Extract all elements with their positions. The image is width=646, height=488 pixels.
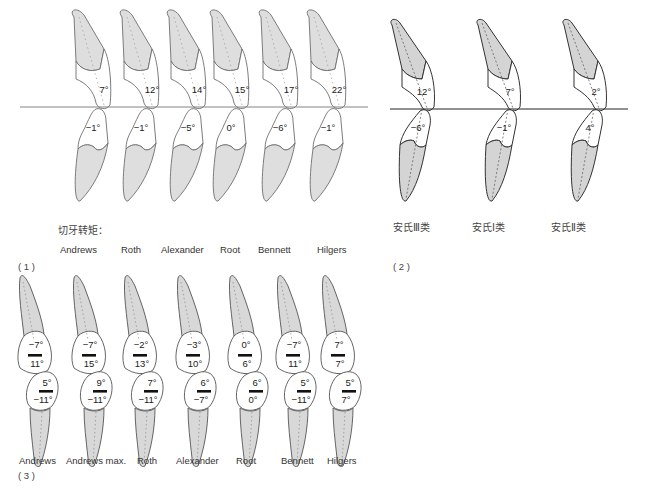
lower-torque-top: 5° (42, 377, 51, 388)
system-label: Andrews (60, 244, 97, 255)
lower-root-icon (213, 143, 246, 201)
upper-root-icon (120, 10, 152, 71)
upper-torque-bottom: 13° (135, 358, 150, 369)
upper-torque-top: −2° (134, 339, 149, 350)
upper-torque-value: 15° (235, 84, 250, 95)
lower-root-icon (310, 143, 343, 201)
panel-3-bracket-torque: −7°11°5°−11°−7°15°9°−11°−2°13°7°−11°−3°1… (18, 276, 361, 467)
upper-torque-top: 0° (241, 339, 250, 350)
lower-root-icon (399, 140, 426, 201)
lower-root-icon (170, 143, 203, 201)
lower-torque-value: −5° (181, 122, 196, 133)
panel-2-angle-classes: 12°−6°7°−1°2°4° (390, 19, 628, 201)
lower-torque-top: 6° (252, 377, 261, 388)
upper-torque-value: 14° (192, 84, 207, 95)
tooth-pair-root: 15°0° (210, 10, 249, 201)
upper-torque-value: 7° (505, 86, 514, 97)
bracket-slot-icon (133, 354, 147, 357)
system-label: Bennett (281, 455, 314, 466)
lower-torque-value: −1° (321, 122, 336, 133)
lower-torque-top: 7° (147, 377, 156, 388)
tooth-pair-andrews: −7°11°5°−11° (18, 276, 58, 467)
panel-1-label: ( 1 ) (18, 261, 35, 272)
class-label: 安氏Ⅰ类 (472, 219, 505, 234)
upper-root-icon (563, 19, 598, 79)
upper-root-icon (177, 276, 202, 336)
lower-torque-bottom: −7° (194, 394, 209, 405)
tooth-pair-andrews: 7°−1° (72, 10, 111, 201)
lower-torque-value: −1° (86, 122, 101, 133)
system-label: Alexander (176, 455, 219, 466)
lower-torque-top: 5° (300, 377, 309, 388)
upper-torque-value: 12° (145, 84, 160, 95)
upper-root-icon (124, 276, 149, 336)
bracket-slot-icon (186, 354, 200, 357)
system-label: Hilgers (327, 455, 357, 466)
lower-root-icon (123, 143, 156, 201)
lower-torque-bottom: −11° (87, 394, 106, 405)
upper-torque-value: 2° (591, 86, 600, 97)
system-label: Andrews max. (66, 455, 126, 466)
tooth-pair-andrews-max-: −7°15°9°−11° (72, 276, 112, 467)
upper-torque-value: 7° (99, 84, 108, 95)
lower-root-icon (571, 140, 598, 201)
upper-root-icon (259, 10, 291, 71)
system-label: Bennett (258, 244, 291, 255)
tooth-pair-class-3: 2°4° (563, 19, 607, 201)
bracket-slot-icon (82, 354, 96, 357)
lower-torque-value: 0° (226, 122, 235, 133)
lower-torque-value: −6° (273, 122, 288, 133)
lower-torque-top: 9° (96, 377, 105, 388)
bracket-slot-icon (286, 354, 300, 357)
bracket-slot-icon (238, 354, 252, 357)
tooth-pair-bennett: 17°−6° (259, 10, 298, 201)
bracket-slot-icon (249, 390, 263, 393)
system-label: Roth (121, 244, 141, 255)
upper-root-icon (307, 10, 339, 71)
lower-torque-bottom: 0° (248, 394, 257, 405)
lower-torque-top: 6° (200, 377, 209, 388)
bracket-slot-icon (39, 390, 53, 393)
upper-root-icon (73, 276, 98, 336)
upper-torque-bottom: 6° (242, 358, 251, 369)
upper-root-icon (72, 10, 104, 71)
panel-2-label: ( 2 ) (393, 261, 410, 272)
lower-root-icon (485, 140, 512, 201)
lower-torque-value: −1° (134, 122, 149, 133)
tooth-pair-root: 0°6°6°0° (228, 276, 268, 467)
upper-root-icon (477, 19, 512, 79)
system-label: Root (220, 244, 240, 255)
panel-1-torque-systems: 7°−1°12°−1°14°−5°15°0°17°−6°22°−1° (20, 10, 368, 201)
upper-torque-bottom: 11° (30, 358, 44, 369)
bracket-slot-icon (197, 390, 211, 393)
system-label: Andrews (19, 455, 56, 466)
system-label: Roth (137, 455, 157, 466)
tooth-pair-class-1: 12°−6° (391, 19, 435, 201)
bracket-slot-icon (297, 390, 311, 393)
upper-root-icon (19, 276, 44, 336)
tooth-pair-hilgers: 22°−1° (307, 10, 346, 201)
panel-1-caption: 切牙转矩： (58, 222, 108, 237)
system-label: Hilgers (317, 244, 347, 255)
tooth-pair-class-2: 7°−1° (477, 19, 521, 201)
upper-torque-bottom: 15° (84, 358, 99, 369)
upper-torque-top: −7° (29, 339, 44, 350)
upper-torque-top: −3° (187, 339, 202, 350)
upper-root-icon (322, 276, 347, 336)
lower-torque-value: −6° (411, 122, 426, 133)
upper-torque-bottom: 10° (188, 358, 203, 369)
lower-torque-value: 4° (585, 122, 594, 133)
upper-root-icon (277, 276, 302, 336)
tooth-pair-alexander: 14°−5° (167, 10, 206, 201)
upper-torque-value: 12° (417, 86, 432, 97)
class-label: 安氏Ⅱ类 (551, 219, 586, 234)
lower-torque-value: −1° (497, 122, 512, 133)
bracket-slot-icon (28, 354, 42, 357)
upper-torque-value: 22° (332, 84, 347, 95)
class-label: 安氏Ⅲ类 (393, 219, 430, 234)
lower-root-icon (262, 143, 295, 201)
upper-torque-bottom: 7° (335, 358, 344, 369)
lower-torque-bottom: −11° (138, 394, 157, 405)
upper-torque-top: −7° (287, 339, 302, 350)
bracket-slot-icon (331, 354, 345, 357)
